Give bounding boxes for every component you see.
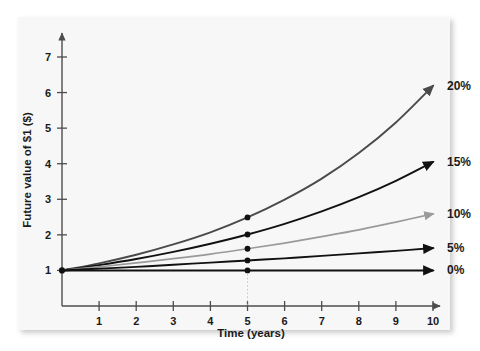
series-label-20pct: 20%: [447, 79, 471, 93]
chart-panel: [18, 17, 450, 330]
series-label-10pct: 10%: [447, 207, 471, 221]
series-labels: 20%15%10%5%0%: [447, 79, 471, 278]
series-label-15pct: 15%: [447, 155, 471, 169]
figure-root: 1234567 12345678910 20%15%10%5%0% Time (…: [0, 0, 480, 351]
